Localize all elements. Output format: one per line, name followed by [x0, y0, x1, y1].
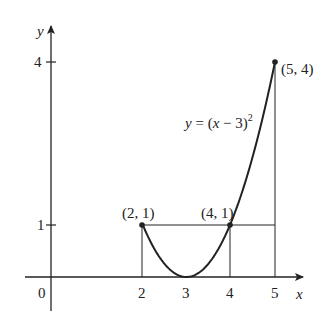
y-tick-label-4: 4	[34, 54, 42, 70]
x-tick-label-3: 3	[182, 285, 190, 301]
x-tick-label-2: 2	[138, 285, 146, 301]
x-tick-label-4: 4	[226, 285, 234, 301]
y-axis-label: y	[35, 23, 44, 39]
y-tick-label-1: 1	[37, 217, 45, 233]
diagram-canvas: (2, 1) (4, 1) (5, 4) y = (x − 3)2 y x 0 …	[0, 0, 334, 329]
x-axis-label: x	[295, 286, 303, 302]
function-label: y = (x − 3)2	[183, 112, 253, 132]
point-label-4-1: (4, 1)	[201, 205, 234, 222]
parabola-curve	[142, 62, 275, 277]
x-tick-label-5: 5	[271, 285, 279, 301]
point-5-4	[272, 59, 278, 65]
point-4-1	[227, 222, 233, 228]
point-2-1	[139, 222, 145, 228]
point-label-2-1: (2, 1)	[122, 205, 155, 222]
origin-label: 0	[38, 285, 46, 301]
point-label-5-4: (5, 4)	[281, 61, 314, 78]
